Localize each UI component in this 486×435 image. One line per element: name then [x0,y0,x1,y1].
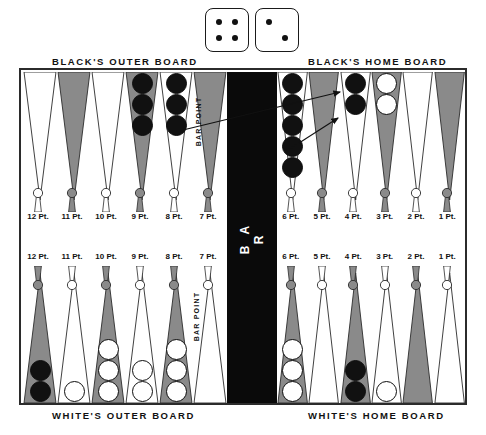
point-tip-marker [96,266,116,292]
point-number-label: 1 Pt. [432,252,463,261]
point-triangle-shape [57,72,91,200]
checker-black[interactable] [30,360,51,381]
point-tip-wrap [306,186,337,212]
point-triangle-shape [91,72,125,200]
point-triangle-shape [23,72,57,200]
checker-stack[interactable] [159,73,193,136]
checker-white[interactable] [376,94,397,115]
checker-black[interactable] [282,94,303,115]
point-2-top-right[interactable] [402,72,433,200]
point-tip-marker [164,266,184,292]
point-number-label: 10 Pt. [89,252,123,261]
checker-stack[interactable] [340,360,371,402]
point-number-label: 1 Pt. [432,212,463,221]
checker-white[interactable] [166,339,187,360]
point-8-top-left[interactable] [159,72,193,200]
point-tip-marker [406,186,426,212]
point-label-cell: 4 Pt. [338,248,369,294]
point-1-top-right[interactable] [434,72,465,200]
point-tip-marker [312,186,332,212]
checker-white[interactable] [132,360,153,381]
checker-white[interactable] [98,360,119,381]
checker-black[interactable] [282,73,303,94]
checker-black[interactable] [282,136,303,157]
checker-stack[interactable] [277,339,308,402]
point-tip-marker [28,266,48,292]
point-10-top-left[interactable] [91,72,125,200]
backgammon-board[interactable]: B A R [19,68,467,405]
checker-stack[interactable] [340,73,371,115]
point-number-label: 4 Pt. [338,252,369,261]
point-6-top-right[interactable] [277,72,308,200]
checker-white[interactable] [132,381,153,402]
checker-white[interactable] [166,381,187,402]
point-number-label: 2 Pt. [400,212,431,221]
point-labels-top: 12 Pt.11 Pt.10 Pt.9 Pt.8 Pt.7 Pt. 6 Pt.5… [19,186,467,232]
heading-blacks-home-board: BLACK'S HOME BOARD [308,56,447,67]
checker-black[interactable] [345,94,366,115]
point-number-label: 11 Pt. [55,212,89,221]
quadrant-black-home-board[interactable] [277,72,465,200]
point-3-top-right[interactable] [371,72,402,200]
die-right-pip [266,19,272,25]
point-4-top-right[interactable] [340,72,371,200]
point-labels-top-right: 6 Pt.5 Pt.4 Pt.3 Pt.2 Pt.1 Pt. [275,186,463,232]
checker-white[interactable] [64,381,85,402]
bar-region[interactable]: B A R [227,72,277,403]
checker-white[interactable] [282,360,303,381]
checker-black[interactable] [132,115,153,136]
checker-white[interactable] [166,360,187,381]
point-labels-bottom-right: 6 Pt.5 Pt.4 Pt.3 Pt.2 Pt.1 Pt. [275,248,463,294]
point-tip-wrap [432,186,463,212]
checker-white[interactable] [282,381,303,402]
point-tip-wrap [191,266,225,292]
checker-stack[interactable] [371,381,402,402]
point-tip-wrap [191,186,225,212]
point-9-top-left[interactable] [125,72,159,200]
checker-black[interactable] [166,94,187,115]
point-number-label: 7 Pt. [191,212,225,221]
die-left [205,8,249,52]
checker-white[interactable] [98,339,119,360]
checker-black[interactable] [282,157,303,178]
checker-white[interactable] [282,339,303,360]
point-triangle-shape [402,72,433,200]
point-11-top-left[interactable] [57,72,91,200]
point-number-label: 8 Pt. [157,252,191,261]
checker-stack[interactable] [125,73,159,136]
point-label-cell: 11 Pt. [55,248,89,294]
checker-white[interactable] [376,73,397,94]
checker-stack[interactable] [371,73,402,115]
checker-white[interactable] [376,381,397,402]
checker-stack[interactable] [57,381,91,402]
point-label-cell: 8 Pt. [157,248,191,294]
point-tip-marker [375,266,395,292]
checker-black[interactable] [132,73,153,94]
checker-black[interactable] [345,381,366,402]
checker-stack[interactable] [159,339,193,402]
checker-stack[interactable] [125,360,159,402]
checker-black[interactable] [30,381,51,402]
checker-white[interactable] [98,381,119,402]
checker-black[interactable] [345,360,366,381]
die-left-pip [232,35,238,41]
checker-black[interactable] [345,73,366,94]
checker-stack[interactable] [277,73,308,178]
checker-stack[interactable] [91,339,125,402]
point-5-top-right[interactable] [308,72,339,200]
die-left-pip [232,19,238,25]
checker-black[interactable] [166,73,187,94]
point-label-cell: 9 Pt. [123,248,157,294]
die-left-pip [216,19,222,25]
point-12-top-left[interactable] [23,72,57,200]
bar-point-label-bottom: BAR POINT [193,292,200,341]
checker-black[interactable] [282,115,303,136]
point-number-label: 7 Pt. [191,252,225,261]
point-tip-wrap [123,186,157,212]
checker-black[interactable] [132,94,153,115]
die-right-pip [282,35,288,41]
point-label-cell: 4 Pt. [338,186,369,232]
checker-black[interactable] [166,115,187,136]
point-tip-marker [28,186,48,212]
checker-stack[interactable] [23,360,57,402]
